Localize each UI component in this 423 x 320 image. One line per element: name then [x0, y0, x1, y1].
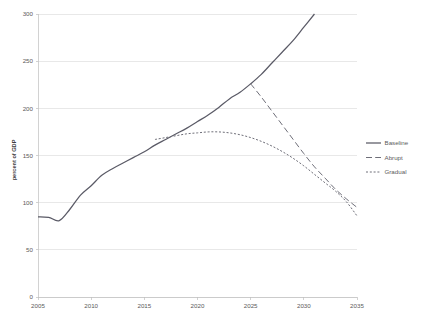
- x-tick-label: 2020: [191, 302, 205, 309]
- y-tick-label: 150: [23, 152, 34, 159]
- x-tick-label: 2005: [31, 302, 45, 309]
- x-tick-label: 2030: [297, 302, 311, 309]
- y-tick-label: 250: [23, 57, 34, 64]
- y-tick-label: 100: [23, 199, 34, 206]
- chart-container: 050100150200250300 200520102015202020252…: [0, 0, 423, 320]
- y-tick-label: 200: [23, 105, 34, 112]
- line-chart: 050100150200250300 200520102015202020252…: [0, 0, 423, 320]
- y-tick-label: 0: [30, 293, 34, 300]
- y-axis-title: percent of GDP: [11, 139, 17, 180]
- x-tick-label: 2025: [244, 302, 258, 309]
- y-tick-label: 50: [26, 246, 33, 253]
- x-tick-label: 2035: [350, 302, 364, 309]
- y-axis-ticks: 050100150200250300: [23, 10, 38, 300]
- legend-label-abrupt: Abrupt: [385, 154, 404, 161]
- x-tick-label: 2015: [137, 302, 151, 309]
- chart-legend: BaselineAbruptGradual: [366, 139, 409, 175]
- x-tick-label: 2010: [84, 302, 98, 309]
- legend-label-gradual: Gradual: [385, 168, 407, 175]
- x-axis-ticks: 2005201020152020202520302035: [31, 297, 364, 309]
- y-tick-label: 300: [23, 10, 34, 17]
- legend-label-baseline: Baseline: [385, 139, 409, 146]
